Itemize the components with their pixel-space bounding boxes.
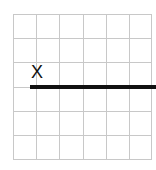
- line-segment: [30, 85, 156, 89]
- point-label-x: X: [31, 63, 43, 81]
